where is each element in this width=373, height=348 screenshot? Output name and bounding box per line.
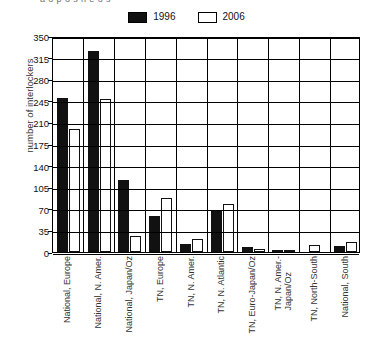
x-tick-label-line: TN, N. Amer.- [273,256,283,311]
x-tick-label: TN, N. Amer.-Japan/Oz [273,256,293,311]
gridline-vertical [83,38,84,252]
gridline-vertical [145,38,146,252]
bar-2006 [69,129,80,252]
bar-1996 [272,250,283,252]
legend-swatch-1996 [128,12,147,23]
y-tick-label: 105 [9,183,49,194]
gridline-vertical [207,38,208,252]
y-tick-mark [48,253,52,254]
y-tick-label: 280 [9,75,49,86]
y-tick-mark [48,58,52,59]
gridline-vertical [268,38,269,252]
y-tick-label: 210 [9,118,49,129]
bar-1996 [334,246,345,252]
y-tick-label: 245 [9,96,49,107]
x-tick-label: TN, North-South [309,256,319,322]
y-tick-mark [48,209,52,210]
y-tick-mark [48,123,52,124]
x-axis-labels: National, EuropeNational, N. Amer.Nation… [52,256,360,348]
y-tick-label: 140 [9,161,49,172]
y-tick-mark [48,37,52,38]
x-tick-label-line: TN, Euro-Japan/Oz [247,256,257,334]
x-tick-label: National, Europe [62,256,72,323]
y-tick-label: 350 [9,32,49,43]
bar-1996 [180,244,191,252]
y-tick-label: 0 [9,248,49,259]
bar-2006 [346,242,357,252]
bar-1996 [242,247,253,252]
x-tick-label: National, South [340,256,350,318]
chart-legend: 1996 2006 [0,9,373,25]
gridline-vertical [330,38,331,252]
bar-chart: a o p o s n e o s 1996 2006 number of in… [0,0,373,348]
bar-1996 [118,180,129,252]
y-tick-label: 35 [9,226,49,237]
x-tick-label-line: TN, N. Atlantic [216,256,226,314]
gridline-horizontal [53,254,359,255]
y-tick-label: 315 [9,53,49,64]
y-tick-label: 70 [9,204,49,215]
bar-2006 [284,250,295,252]
gridline-vertical [237,38,238,252]
bar-2006 [192,239,203,252]
bar-2006 [254,249,265,252]
legend-label-1996: 1996 [153,12,175,22]
legend-item-1996: 1996 [128,12,175,23]
x-tick-label: TN, N. Amer. [186,256,196,308]
x-tick-label: TN, N. Atlantic [216,256,226,314]
bar-1996 [149,216,160,252]
legend-label-2006: 2006 [223,12,245,22]
x-tick-label-line: TN, North-South [309,256,319,322]
y-tick-mark [48,231,52,232]
bar-1996 [57,98,68,252]
bar-2006 [130,236,141,252]
x-tick-label: National, N. Amer. [93,256,103,329]
y-tick-mark [48,145,52,146]
y-tick-mark [48,166,52,167]
x-tick-label-line: National, Japan/Oz [124,256,134,333]
x-tick-label: TN, Europe [155,256,165,302]
x-tick-label: National, Japan/Oz [124,256,134,333]
y-tick-label: 175 [9,140,49,151]
legend-swatch-2006 [198,12,217,23]
y-tick-mark [48,80,52,81]
x-tick-label-line: TN, N. Amer. [186,256,196,308]
x-tick-label-line: National, N. Amer. [93,256,103,329]
y-tick-mark [48,101,52,102]
x-tick-label-line: National, Europe [62,256,72,323]
x-tick-label-line: Japan/Oz [283,256,293,311]
bar-2006 [100,99,111,252]
bar-2006 [309,245,320,252]
legend-item-2006: 2006 [198,12,245,23]
y-tick-mark [48,188,52,189]
plot-area [52,37,360,253]
gridline-vertical [176,38,177,252]
gridline-vertical [299,38,300,252]
x-tick-label-line: National, South [340,256,350,318]
x-tick-label: TN, Euro-Japan/Oz [247,256,257,334]
gridline-vertical [114,38,115,252]
clipped-header-text: a o p o s n e o s [40,0,360,6]
bar-2006 [161,198,172,252]
x-tick-label-line: TN, Europe [155,256,165,302]
